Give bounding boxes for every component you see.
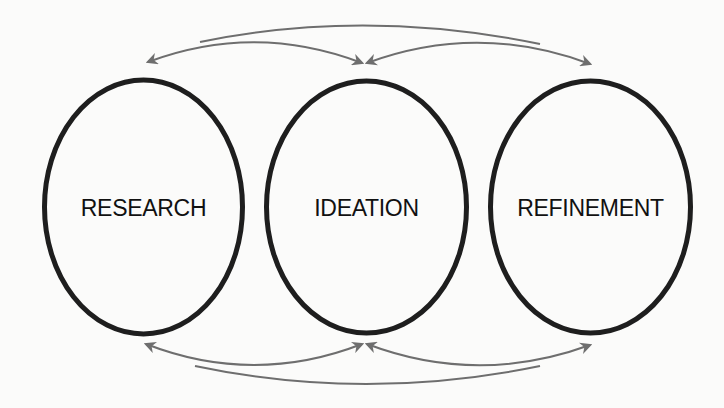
bottom-arrows: [146, 344, 590, 384]
arrow-research-refinement-bottom: [195, 366, 540, 384]
arrow-ideation-refinement-bottom: [367, 344, 590, 365]
arrow-ideation-refinement-top: [367, 43, 590, 64]
ideation-label: IDEATION: [314, 195, 419, 221]
node-refinement: REFINEMENT: [491, 81, 691, 333]
process-diagram: RESEARCH IDEATION REFINEMENT: [0, 0, 724, 408]
top-arrows: [148, 25, 590, 64]
arrow-research-ideation-bottom: [146, 344, 362, 365]
refinement-label: REFINEMENT: [517, 195, 664, 221]
arrow-research-refinement-top: [200, 25, 540, 44]
arrow-research-ideation-top: [148, 42, 362, 63]
research-label: RESEARCH: [81, 195, 206, 221]
node-research: RESEARCH: [45, 80, 243, 334]
node-ideation: IDEATION: [267, 81, 467, 333]
